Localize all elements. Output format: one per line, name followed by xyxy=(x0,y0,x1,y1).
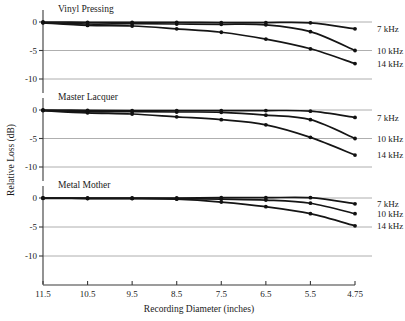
panel-title-metal-mother: Metal Mother xyxy=(58,180,111,190)
data-point xyxy=(309,201,313,205)
y-tick-label-0: 0 xyxy=(33,105,38,115)
data-point xyxy=(41,196,45,200)
x-axis-title: Recording Diameter (inches) xyxy=(144,304,254,315)
series-label-14-kHz: 14 kHz xyxy=(377,59,403,69)
x-tick-label-9.5: 9.5 xyxy=(127,289,139,299)
chart-figure: 0-5-10Vinyl Pressing7 kHz10 kHz14 kHz0-5… xyxy=(0,0,405,321)
data-point xyxy=(86,24,90,28)
data-point xyxy=(309,135,313,139)
data-point xyxy=(353,116,357,120)
data-point xyxy=(130,112,134,116)
y-tick-label-0: 0 xyxy=(33,17,38,27)
x-tick-label-11.5: 11.5 xyxy=(35,289,51,299)
panel-title-vinyl-pressing: Vinyl Pressing xyxy=(58,4,114,14)
data-point xyxy=(264,205,268,209)
data-point xyxy=(41,109,45,113)
y-tick-label--5: -5 xyxy=(30,222,38,232)
data-point xyxy=(264,113,268,117)
y-tick-label--10: -10 xyxy=(25,162,37,172)
data-point xyxy=(353,153,357,157)
y-tick-label-0: 0 xyxy=(33,193,38,203)
data-point xyxy=(353,49,357,53)
data-point xyxy=(130,197,134,201)
data-point xyxy=(219,118,223,122)
data-point xyxy=(353,137,357,141)
data-point xyxy=(309,109,313,113)
data-point xyxy=(175,110,179,114)
y-axis-title: Relative Loss (dB) xyxy=(6,124,17,196)
series-label-7-kHz: 7 kHz xyxy=(377,24,399,34)
data-point xyxy=(309,118,313,122)
data-point xyxy=(264,198,268,202)
data-point xyxy=(219,110,223,114)
data-point xyxy=(175,115,179,119)
y-tick-label--10: -10 xyxy=(25,251,37,261)
series-curve-10-kHz xyxy=(43,23,355,51)
data-point xyxy=(86,197,90,201)
data-point xyxy=(353,27,357,31)
series-label-10-kHz: 10 kHz xyxy=(377,209,403,219)
data-point xyxy=(309,21,313,25)
series-label-10-kHz: 10 kHz xyxy=(377,134,403,144)
data-point xyxy=(309,196,313,200)
series-curve-14-kHz xyxy=(43,23,355,64)
data-point xyxy=(264,109,268,113)
data-point xyxy=(309,212,313,216)
data-point xyxy=(264,123,268,127)
series-label-7-kHz: 7 kHz xyxy=(377,199,399,209)
data-point xyxy=(219,30,223,34)
series-curve-14-kHz xyxy=(43,111,355,155)
x-tick-label-7.5: 7.5 xyxy=(216,289,228,299)
data-point xyxy=(353,224,357,228)
data-point xyxy=(175,197,179,201)
x-tick-label-5.5: 5.5 xyxy=(305,289,317,299)
x-axis: 11.510.59.58.57.56.55.54.75Recording Dia… xyxy=(35,281,363,315)
data-point xyxy=(353,62,357,66)
y-tick-label--5: -5 xyxy=(30,134,38,144)
data-point xyxy=(41,21,45,25)
panel-master-lacquer: 0-5-10Master Lacquer7 kHz10 kHz14 kHz xyxy=(25,92,403,181)
chart-canvas: 0-5-10Vinyl Pressing7 kHz10 kHz14 kHz0-5… xyxy=(0,0,405,321)
y-tick-label--5: -5 xyxy=(30,46,38,56)
data-point xyxy=(309,47,313,51)
series-label-14-kHz: 14 kHz xyxy=(377,221,403,231)
data-point xyxy=(353,212,357,216)
series-curve-10-kHz xyxy=(43,110,355,138)
data-point xyxy=(219,200,223,204)
data-point xyxy=(353,202,357,206)
data-point xyxy=(86,111,90,115)
panel-metal-mother: 0-5-10Metal Mother7 kHz10 kHz14 kHz xyxy=(25,180,403,284)
x-tick-label-10.5: 10.5 xyxy=(80,289,96,299)
data-point xyxy=(264,23,268,27)
data-point xyxy=(175,22,179,26)
series-label-7-kHz: 7 kHz xyxy=(377,113,399,123)
x-tick-label-8.5: 8.5 xyxy=(171,289,183,299)
series-label-14-kHz: 14 kHz xyxy=(377,150,403,160)
panel-vinyl-pressing: 0-5-10Vinyl Pressing7 kHz10 kHz14 kHz xyxy=(25,4,403,93)
y-tick-label--10: -10 xyxy=(25,74,37,84)
data-point xyxy=(264,37,268,41)
x-tick-label-4.75: 4.75 xyxy=(347,289,363,299)
panel-title-master-lacquer: Master Lacquer xyxy=(58,92,119,102)
data-point xyxy=(130,24,134,28)
data-point xyxy=(219,22,223,26)
data-point xyxy=(175,27,179,31)
series-label-10-kHz: 10 kHz xyxy=(377,46,403,56)
x-tick-label-6.5: 6.5 xyxy=(260,289,272,299)
data-point xyxy=(309,30,313,34)
